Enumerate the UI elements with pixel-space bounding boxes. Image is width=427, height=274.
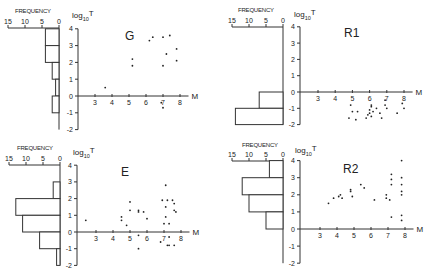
x-tick-label: 7 bbox=[386, 232, 390, 239]
data-point bbox=[363, 187, 365, 189]
histogram-tick-label: 0 bbox=[281, 17, 285, 24]
data-point bbox=[167, 244, 169, 246]
data-point bbox=[132, 58, 134, 60]
data-point bbox=[121, 219, 123, 221]
data-point bbox=[348, 117, 350, 119]
data-point bbox=[173, 209, 175, 211]
x-tick-label: 4 bbox=[333, 95, 337, 102]
histogram-tick-label: 10 bbox=[22, 155, 30, 162]
data-point bbox=[379, 112, 381, 114]
data-point bbox=[143, 211, 145, 213]
histogram-tick-label: 5 bbox=[41, 155, 45, 162]
data-point bbox=[173, 244, 175, 246]
data-point bbox=[357, 111, 359, 113]
y-axis-label: log10T bbox=[73, 146, 95, 159]
scatter-points bbox=[328, 160, 403, 222]
histogram-bar bbox=[52, 96, 59, 113]
data-point bbox=[165, 206, 167, 208]
y-tick-label: 3 bbox=[69, 42, 73, 49]
y-tick-label: 1 bbox=[68, 212, 72, 219]
histogram-bar bbox=[56, 79, 59, 96]
y-tick-label: -2 bbox=[66, 262, 72, 269]
y-tick-label: 0 bbox=[291, 226, 295, 233]
data-point bbox=[385, 194, 387, 196]
x-tick-label: 7 bbox=[162, 235, 166, 242]
histogram-bar bbox=[16, 199, 60, 216]
data-point bbox=[386, 107, 388, 109]
data-point bbox=[369, 109, 371, 111]
y-tick-label: 4 bbox=[69, 25, 73, 32]
panel-r1: 151050FREQUENCY43210-1-2log10T345678MR1 bbox=[228, 7, 422, 128]
data-point bbox=[152, 36, 154, 38]
histogram-tick-label: 15 bbox=[228, 17, 236, 24]
y-axis-label: log10T bbox=[295, 144, 317, 157]
histogram-bar bbox=[40, 232, 60, 249]
y-tick-label: -1 bbox=[67, 109, 73, 116]
data-point bbox=[166, 53, 168, 55]
histogram-tick-label: 5 bbox=[264, 151, 268, 158]
y-tick-label: 2 bbox=[69, 59, 73, 66]
data-point bbox=[401, 184, 403, 186]
x-axis-magnitude: 345678M bbox=[300, 225, 424, 239]
data-point bbox=[165, 184, 167, 186]
x-tick-label: 3 bbox=[94, 235, 98, 242]
x-axis-label: M bbox=[193, 228, 200, 237]
data-point bbox=[391, 179, 393, 181]
data-point bbox=[161, 199, 163, 201]
histogram-tick-label: 0 bbox=[281, 151, 285, 158]
x-axis-magnitude: 345678M bbox=[300, 88, 423, 102]
data-point bbox=[355, 119, 357, 121]
y-tick-label: -2 bbox=[67, 126, 73, 133]
y-tick-label: -1 bbox=[289, 105, 295, 112]
histogram-bar bbox=[23, 215, 60, 232]
histogram-tick-label: 10 bbox=[245, 17, 253, 24]
histogram-frequency-label: FREQUENCY bbox=[242, 142, 278, 148]
data-point bbox=[341, 197, 343, 199]
y-tick-label: 3 bbox=[291, 40, 295, 47]
data-point bbox=[376, 107, 378, 109]
data-point bbox=[403, 107, 405, 109]
data-point bbox=[121, 216, 123, 218]
y-tick-label: 2 bbox=[68, 195, 72, 202]
data-point bbox=[146, 218, 148, 220]
panel-label: R1 bbox=[344, 26, 360, 40]
data-point bbox=[401, 190, 403, 192]
histogram-tick-label: 15 bbox=[228, 151, 236, 158]
data-point bbox=[391, 216, 393, 218]
histogram-bar bbox=[266, 212, 283, 229]
data-point bbox=[370, 106, 372, 108]
data-point bbox=[168, 244, 170, 246]
data-point bbox=[333, 197, 335, 199]
x-tick-label: 4 bbox=[335, 232, 339, 239]
histogram-tick-label: 0 bbox=[57, 18, 61, 25]
x-axis-label: M bbox=[417, 225, 424, 234]
data-point bbox=[162, 36, 164, 38]
data-point bbox=[138, 248, 140, 250]
x-tick-label: 8 bbox=[402, 95, 406, 102]
y-tick-label: 1 bbox=[291, 72, 295, 79]
y-tick-label: 0 bbox=[69, 93, 73, 100]
y-axis-log10-t: 43210-1-2log10T bbox=[66, 146, 95, 269]
data-point bbox=[367, 114, 369, 116]
data-point bbox=[401, 220, 403, 222]
histogram-bar bbox=[259, 92, 283, 108]
x-tick-label: 6 bbox=[369, 232, 373, 239]
data-point bbox=[374, 199, 376, 201]
y-tick-label: 3 bbox=[291, 174, 295, 181]
data-point bbox=[162, 107, 164, 109]
histogram-bar bbox=[45, 29, 59, 46]
data-point bbox=[396, 112, 398, 114]
scatter-points bbox=[348, 99, 405, 120]
y-tick-label: 0 bbox=[68, 229, 72, 236]
data-point bbox=[129, 201, 131, 203]
data-point bbox=[385, 197, 387, 199]
data-point bbox=[350, 190, 352, 192]
figure-container: 151050FREQUENCY43210-1-2log10T345678MG15… bbox=[0, 0, 427, 274]
data-point bbox=[401, 214, 403, 216]
histogram-frequency-label: FREQUENCY bbox=[15, 8, 51, 14]
data-point bbox=[138, 209, 140, 211]
data-point bbox=[176, 48, 178, 50]
y-axis-log10-t: 43210-1-2log10T bbox=[289, 144, 317, 267]
data-point bbox=[160, 102, 162, 104]
y-tick-label: 2 bbox=[291, 56, 295, 63]
